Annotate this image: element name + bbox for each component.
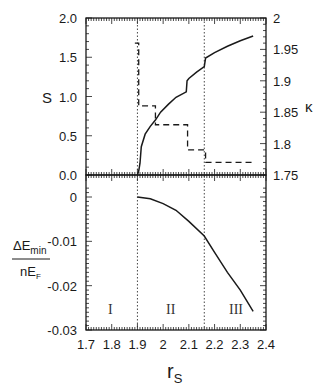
x-tick-label: 1.9 (128, 337, 146, 352)
y-tick-label-kappa: 1.8 (273, 137, 291, 152)
y-tick-label-s: 0.5 (59, 129, 77, 144)
x-tick-label: 2.2 (206, 337, 224, 352)
x-axis-label: rS (167, 360, 183, 386)
energy-curve (137, 197, 253, 311)
axis-ticks (86, 18, 266, 330)
x-tick-label: 2.1 (180, 337, 198, 352)
region-label-1: I (108, 302, 113, 317)
y-tick-label-energy: 0 (70, 190, 77, 205)
x-tick-label: 2 (160, 337, 167, 352)
y-tick-label-kappa: 1.75 (273, 168, 298, 183)
tick-labels: 1.71.81.922.12.22.32.40.00.51.01.52.01.7… (47, 11, 298, 352)
region-label-3: III (229, 302, 243, 317)
y-tick-label-s: 2.0 (59, 11, 77, 26)
x-tick-label: 2.4 (257, 337, 275, 352)
lower-y-label-numerator: ΔEmin (13, 238, 46, 256)
x-tick-label: 1.8 (103, 337, 121, 352)
y-axis-label-kappa: κ (305, 98, 313, 115)
lower-y-label-denominator: nEF (20, 264, 41, 281)
y-tick-label-kappa: 1.95 (273, 42, 298, 57)
kappa-curve (135, 43, 253, 162)
y-tick-label-energy: -0.02 (47, 279, 77, 294)
y-tick-label-kappa: 1.9 (273, 74, 291, 89)
x-tick-label: 1.7 (77, 337, 95, 352)
y-tick-label-s: 0.0 (59, 168, 77, 183)
y-axis-label-s: S (42, 89, 52, 106)
y-tick-label-energy: -0.03 (47, 323, 77, 338)
y-tick-label-kappa: 2 (273, 11, 280, 26)
y-tick-label-s: 1.0 (59, 90, 77, 105)
chart: 1.71.81.922.12.22.32.40.00.51.01.52.01.7… (0, 0, 322, 390)
x-tick-label: 2.3 (231, 337, 249, 352)
y-tick-label-energy: -0.01 (47, 234, 77, 249)
y-tick-label-kappa: 1.85 (273, 105, 298, 120)
y-tick-label-s: 1.5 (59, 50, 77, 65)
region-label-2: II (166, 302, 176, 317)
